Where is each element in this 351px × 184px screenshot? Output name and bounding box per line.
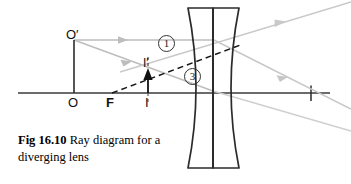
upper-exit-ray (120, 2, 351, 72)
object-top-label: O′ (66, 28, 79, 41)
image-base-label: I (145, 96, 149, 109)
focal-point-label: F (106, 96, 114, 109)
figure-container: O′ O F I′ I 1 3 Fig 16.10 Ray diagram fo… (0, 0, 351, 184)
figure-caption: Fig 16.10 Ray diagram for a diverging le… (18, 132, 188, 165)
object-base-label: O (68, 96, 78, 109)
lens-left-element (188, 8, 213, 168)
refracted-ray-one (214, 40, 351, 109)
image-top-label: I′ (143, 57, 149, 69)
incident-ray-one-arrowhead (118, 36, 128, 44)
caption-figure-number: Fig 16.10 (18, 133, 67, 147)
ray-number-one-badge: 1 (158, 35, 175, 52)
ray-number-three-badge: 3 (184, 68, 201, 85)
upper-exit-ray-arrowhead (275, 20, 286, 28)
lens-right-element (213, 8, 239, 168)
ray-three-exit (213, 91, 351, 131)
